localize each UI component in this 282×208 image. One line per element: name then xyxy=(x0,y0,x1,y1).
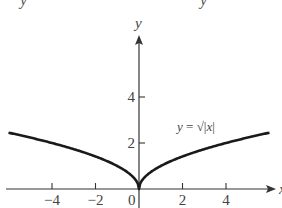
y-tick-label: 4 xyxy=(128,89,136,105)
x-tick-label: 4 xyxy=(222,192,230,208)
x-tick-label: 2 xyxy=(179,192,187,208)
x-tick-label: −4 xyxy=(44,192,60,208)
function-plot: xy −4−202424 y = √|x| xyxy=(0,0,282,208)
function-label: y = √|x| xyxy=(175,119,215,134)
y-tick-label: 2 xyxy=(128,135,136,151)
y-axis-label: y xyxy=(133,15,142,31)
x-tick-label: 0 xyxy=(128,192,136,208)
x-axis-label: x xyxy=(278,181,282,197)
x-tick-label: −2 xyxy=(88,192,104,208)
